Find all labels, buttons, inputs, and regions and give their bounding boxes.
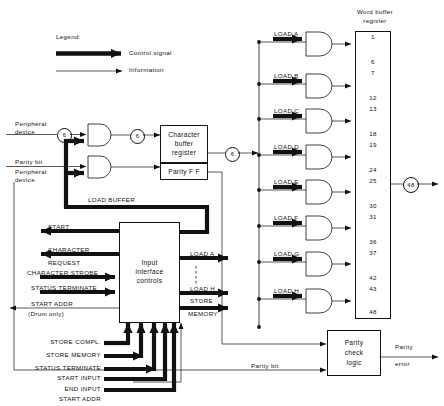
gate-label-load-h: LOAD H — [274, 287, 299, 295]
wbr-cell-7-top: 37 — [355, 249, 391, 257]
signal-label-start-input: START INPUT — [28, 374, 101, 382]
wbr-cell-1-top: 1 — [355, 33, 391, 41]
bus-width-marker-6-b: 6 — [130, 129, 145, 144]
peripheral-device-1-label-line1: Peripheral — [15, 120, 47, 128]
signal-label-memory: MEMORY — [188, 310, 218, 318]
peripheral-device-2-label-line1: Peripheral — [15, 168, 47, 176]
parity-check-logic-line2: check — [328, 349, 380, 358]
wbr-cell-5-top: 25 — [355, 177, 391, 185]
gate-label-load-c: LOAD C — [274, 107, 299, 115]
signal-label-status-terminate-left: STATUS TERMINATE — [31, 284, 97, 292]
word-buffer-register-title-line2: register — [330, 17, 420, 25]
character-buffer-register-line1: Character — [161, 131, 207, 140]
gate-label-load-d: LOAD D — [274, 143, 299, 151]
signal-label-start: START — [48, 223, 69, 231]
wbr-cell-6-top: 31 — [355, 213, 391, 221]
signal-label-end-input: END INPUT — [28, 385, 101, 393]
peripheral-device-2-label-line2: device — [15, 176, 35, 184]
legend-heading: Legend: — [56, 33, 81, 41]
input-interface-controls-line3: controls — [120, 277, 179, 286]
wbr-cell-8-bottom: 48 — [355, 308, 391, 316]
word-buffer-register-title-line1: Word buffer — [330, 8, 420, 16]
legend-control-signal-label: Control signal — [129, 49, 172, 57]
bus-width-marker-48: 48 — [403, 177, 419, 193]
signal-label-start-addr-bottom: START ADDR — [28, 395, 101, 403]
gate-label-load-b: LOAD B — [274, 72, 299, 80]
gate-label-load-g: LOAD G — [274, 250, 299, 258]
parity-check-logic-line3: logic — [328, 359, 380, 368]
input-interface-controls-line2: interface — [120, 268, 179, 277]
bus-width-marker-6-a: 6 — [57, 128, 72, 143]
bus-width-6-b-text: 6 — [136, 133, 140, 139]
parity-ff-label: Parity F F — [161, 168, 207, 177]
character-buffer-register-line2: buffer — [161, 140, 207, 149]
signal-label-store-memory: STORE MEMORY — [28, 351, 101, 359]
wbr-cell-5-bottom: 30 — [355, 202, 391, 210]
gate-label-load-e: LOAD E — [274, 178, 299, 186]
wbr-cell-3-bottom: 18 — [355, 130, 391, 138]
gate-label-load-a: LOAD A — [274, 30, 298, 38]
parity-check-logic-block: Parity check logic — [327, 330, 381, 376]
peripheral-device-1-label-line2: device — [15, 128, 35, 136]
signal-label-request: REQUEST — [48, 259, 80, 267]
wbr-cell-2-top: 7 — [355, 69, 391, 77]
legend-information-label: Information — [129, 66, 164, 74]
character-buffer-register-block: Character buffer register — [160, 125, 208, 163]
character-buffer-register-line3: register — [161, 149, 207, 158]
signal-label-store-compl: STORE COMPL. — [28, 338, 101, 346]
wbr-cell-8-top: 43 — [355, 285, 391, 293]
wbr-cell-6-bottom: 36 — [355, 238, 391, 246]
wbr-cell-4-bottom: 24 — [355, 166, 391, 174]
signal-label-character-strobe: CHARACTER STROBE — [27, 269, 98, 277]
diagram-canvas: Legend: Control signal Information Perip… — [0, 0, 444, 406]
bus-width-48-text: 48 — [407, 182, 414, 188]
parity-bit-input-label: Parity bit — [15, 158, 43, 166]
parity-error-label-line1: Parity — [395, 343, 413, 351]
parity-check-logic-line1: Parity — [328, 339, 380, 348]
signal-label-character: CHARACTER — [48, 246, 90, 254]
wbr-cell-2-bottom: 12 — [355, 94, 391, 102]
input-interface-controls-block: Input interface controls — [119, 222, 180, 323]
signal-label-store: STORE — [190, 297, 213, 305]
bus-width-marker-6-c: 6 — [225, 147, 240, 162]
load-buffer-label: LOAD BUFFER — [88, 196, 135, 204]
input-interface-controls-line1: Input — [120, 259, 179, 268]
parity-bit-lower-label: Parity bit — [251, 362, 279, 370]
wbr-cell-3-top: 13 — [355, 105, 391, 113]
signal-label-load-a-out: LOAD A — [190, 250, 214, 258]
parity-error-label-line2: error — [395, 360, 410, 368]
wbr-cell-4-top: 19 — [355, 141, 391, 149]
signal-label-load-h-out: LOAD H — [190, 285, 215, 293]
bus-width-6-c-text: 6 — [231, 151, 235, 157]
gate-label-load-f: LOAD F — [274, 214, 298, 222]
signal-label-drum-only-left: (Drum only) — [28, 310, 64, 318]
wbr-cell-1-bottom: 6 — [355, 58, 391, 66]
parity-ff-block: Parity F F — [160, 163, 208, 180]
signal-label-start-addr-left: START ADDR — [31, 300, 73, 308]
bus-width-6-a-text: 6 — [63, 132, 67, 138]
wbr-cell-7-bottom: 42 — [355, 274, 391, 282]
signal-label-status-terminate-bottom: STATUS TERMINATE — [14, 364, 101, 372]
